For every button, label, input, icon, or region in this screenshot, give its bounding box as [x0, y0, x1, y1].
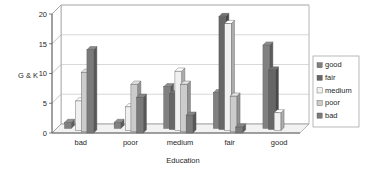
legend-label-medium: medium	[325, 86, 352, 95]
bar-face	[137, 97, 144, 133]
bar-face	[87, 50, 94, 133]
bar-face	[65, 122, 72, 128]
y-axis-tick-label: 0	[43, 129, 47, 138]
bar-chart: 05101520 badpoormediumfairgood G & K Edu…	[0, 0, 375, 172]
bar-side	[281, 110, 284, 131]
legend-label-fair: fair	[325, 73, 336, 82]
bar	[186, 112, 196, 133]
x-axis-category-label: good	[271, 138, 288, 147]
bar-side	[193, 112, 196, 133]
legend-label-good: good	[325, 60, 342, 69]
x-axis-category-label: medium	[167, 138, 194, 147]
legend-swatch-poor	[317, 100, 322, 105]
x-axis-category-labels: badpoormediumfairgood	[75, 138, 288, 147]
y-axis-tick-label: 5	[43, 99, 47, 108]
legend-label-bad: bad	[325, 111, 338, 120]
bar	[87, 47, 97, 134]
bar-face	[274, 113, 281, 131]
legend-swatch-medium	[317, 88, 322, 93]
bar-face	[114, 122, 121, 128]
bar-side	[143, 94, 146, 133]
y-axis-tick-label: 10	[39, 69, 47, 78]
y-axis-tick-label: 20	[39, 10, 47, 19]
legend: goodfairmediumpoorbad	[313, 56, 359, 127]
bar-face	[230, 96, 237, 132]
legend-swatch-good	[317, 63, 322, 68]
chart-container: 05101520 badpoormediumfairgood G & K Edu…	[0, 0, 375, 172]
bar-face	[186, 115, 193, 133]
x-axis-title: Education	[166, 156, 199, 165]
x-axis-category-label: fair	[224, 138, 235, 147]
bar-side	[94, 47, 97, 134]
bar-face	[236, 127, 243, 133]
legend-swatch-fair	[317, 75, 322, 80]
legend-label-poor: poor	[325, 98, 341, 107]
bar	[274, 110, 284, 131]
x-axis-category-label: poor	[123, 138, 139, 147]
legend-swatch-bad	[317, 113, 322, 118]
y-axis-tick-label: 15	[39, 40, 47, 49]
bar	[137, 94, 147, 133]
x-axis-category-label: bad	[75, 138, 88, 147]
y-axis-title: G & K	[18, 71, 38, 80]
